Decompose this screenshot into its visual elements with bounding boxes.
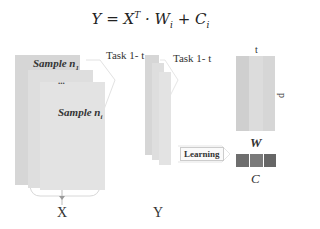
sample-label-first: Sample n1 [33,57,79,72]
learning-label: Learning [180,147,224,161]
c-cell-2 [250,154,263,167]
w-col-3 [263,56,275,131]
w-label: W [250,135,262,151]
output-panel-3 [159,72,171,165]
w-side-dim: p [277,93,288,98]
sample-label-last: Sample ni [58,106,102,121]
w-col-2 [249,56,263,131]
c-label: C [251,171,260,187]
task-label-output: Task 1- t [173,52,211,64]
w-col-1 [236,56,249,131]
sample-panel-3 [40,82,105,190]
ellipsis: ... [58,76,65,86]
task-label-input: Task 1- t [106,49,144,61]
w-top-dim: t [255,44,258,55]
c-cell-1 [236,154,249,167]
c-cell-3 [264,154,276,167]
y-label: Y [153,205,163,221]
x-label: X [57,205,67,221]
